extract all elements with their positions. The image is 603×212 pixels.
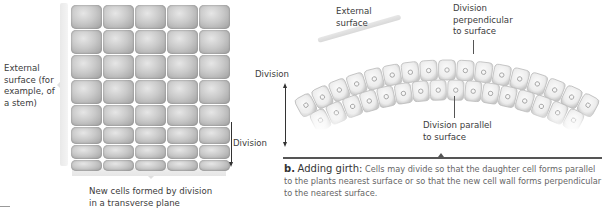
label-line: External	[4, 63, 55, 75]
external-surface-label-b: External surface	[336, 6, 372, 29]
cell	[103, 55, 134, 79]
label-line: to surface	[423, 132, 492, 144]
label-line: in a transverse plane	[89, 198, 212, 210]
cell	[167, 127, 198, 144]
cell	[167, 160, 198, 171]
cell	[103, 30, 134, 54]
cell	[167, 30, 198, 54]
cell	[135, 5, 166, 29]
cell	[167, 5, 198, 29]
cell	[167, 55, 198, 79]
cell	[71, 145, 102, 159]
curved-cell-layers	[290, 40, 603, 130]
division-label-b: Division	[255, 69, 289, 81]
cell	[135, 160, 166, 171]
cell	[199, 105, 230, 126]
cell	[135, 30, 166, 54]
cell	[71, 30, 102, 54]
cell	[103, 145, 134, 159]
label-line: perpendicular	[453, 15, 513, 27]
cell	[135, 105, 166, 126]
label-line: example, of	[4, 86, 55, 98]
cell	[71, 127, 102, 144]
cell	[71, 80, 102, 104]
cell	[135, 127, 166, 144]
cell	[199, 127, 230, 144]
parallel-leader-line	[454, 96, 455, 118]
cell	[199, 30, 230, 54]
label-line: Division	[453, 3, 513, 15]
cell	[135, 80, 166, 104]
cell	[103, 5, 134, 29]
label-line: surface	[336, 18, 372, 30]
cell	[103, 105, 134, 126]
caption-letter: b.	[284, 163, 295, 174]
cell	[199, 55, 230, 79]
cell	[199, 5, 230, 29]
cell	[103, 80, 134, 104]
label-line: surface (for	[4, 75, 55, 87]
external-surface-bracket-tick	[57, 82, 60, 88]
division-double-arrow-b	[285, 87, 286, 143]
cell	[167, 80, 198, 104]
caption-b: b. Adding girth: Cells may divide so tha…	[284, 163, 602, 200]
external-surface-bracket	[60, 3, 68, 166]
external-surface-label-a: External surface (for example, of a stem…	[4, 63, 55, 109]
division-arrowhead-down	[283, 142, 287, 147]
cell	[199, 80, 230, 104]
label-line: to surface	[453, 26, 513, 38]
cell	[199, 145, 230, 159]
cell	[71, 105, 102, 126]
cell	[71, 5, 102, 29]
division-arrowhead-a	[229, 162, 233, 167]
division-parallel-label: Division parallel to surface	[423, 120, 492, 143]
label-line: a stem)	[4, 98, 55, 110]
division-arrowhead-up	[283, 83, 287, 88]
new-cells-bracket-tick	[148, 176, 154, 179]
division-label-a: Division	[233, 138, 267, 150]
cell	[167, 145, 198, 159]
label-line: External	[336, 6, 372, 18]
label-line: Division parallel	[423, 120, 492, 132]
footer-fragment	[0, 206, 10, 207]
cell	[71, 160, 102, 171]
cell	[135, 55, 166, 79]
cell	[71, 55, 102, 79]
cell	[135, 145, 166, 159]
cell	[103, 160, 134, 171]
label-line: New cells formed by division	[89, 186, 212, 198]
caption-divider	[283, 157, 602, 159]
new-cells-label: New cells formed by division in a transv…	[89, 186, 212, 209]
division-perpendicular-label: Division perpendicular to surface	[453, 3, 513, 38]
cell	[199, 160, 230, 171]
caption-title: Adding girth:	[298, 163, 363, 174]
division-arrow-a	[231, 122, 232, 164]
cell	[167, 105, 198, 126]
caption-divider-tick	[438, 153, 444, 157]
cell	[103, 127, 134, 144]
